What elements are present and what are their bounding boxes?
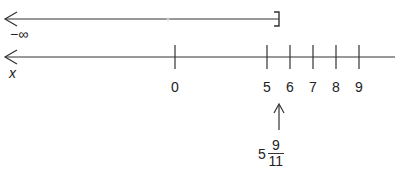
marker-numerator: 9 <box>272 138 280 153</box>
tick-label-6: 6 <box>286 80 294 94</box>
marker-fraction: 9 11 <box>268 138 284 169</box>
marker-denominator: 11 <box>269 154 284 169</box>
tick-label-9: 9 <box>355 80 363 94</box>
faint-dot <box>167 18 170 21</box>
marker-whole: 5 <box>258 146 266 162</box>
number-line-diagram <box>0 0 403 177</box>
tick-label-8: 8 <box>332 80 340 94</box>
tick-label-0: 0 <box>171 80 179 94</box>
variable-x-label: x <box>9 66 16 80</box>
tick-label-5: 5 <box>263 80 271 94</box>
tick-label-7: 7 <box>309 80 317 94</box>
mixed-number-marker: 5 9 11 <box>258 138 284 169</box>
neg-infinity-label: −∞ <box>10 27 28 41</box>
